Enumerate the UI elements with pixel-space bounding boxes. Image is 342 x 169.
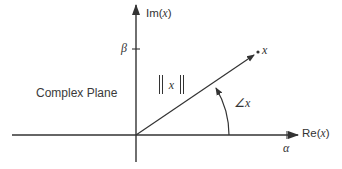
re-prefix: Re( (302, 127, 321, 139)
complex-plane-label: Complex Plane (36, 87, 117, 99)
imaginary-axis-label: Im(x) (146, 8, 172, 20)
norm-bar-right-2 (183, 75, 184, 94)
angle-label: ∠x (234, 97, 250, 109)
norm-bar-left-2 (162, 75, 163, 94)
alpha-tick-label: α (283, 142, 289, 154)
norm-bar-left-1 (159, 75, 160, 94)
magnitude-var: x (169, 79, 174, 91)
vector-x (136, 55, 254, 135)
im-prefix: Im( (146, 7, 163, 19)
re-suffix: ) (326, 127, 330, 139)
beta-tick-label: β (121, 42, 127, 54)
real-axis-label: Re(x) (302, 128, 329, 140)
vector-endpoint-dot (256, 50, 259, 53)
norm-bar-right-1 (180, 75, 181, 94)
im-suffix: ) (168, 7, 172, 19)
angle-arc (216, 88, 229, 135)
magnitude-label: x (158, 75, 185, 94)
vector-endpoint-label: x (262, 44, 267, 56)
